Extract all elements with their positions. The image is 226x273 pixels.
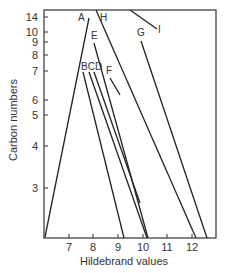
y-tick-14: 14 bbox=[26, 11, 38, 23]
x-tick-7: 7 bbox=[66, 241, 72, 253]
label-H: H bbox=[100, 12, 107, 23]
series-labels: A H E BCD F G I bbox=[78, 12, 161, 76]
plot-frame bbox=[44, 10, 216, 238]
x-axis bbox=[69, 234, 192, 238]
x-tick-8: 8 bbox=[90, 241, 96, 253]
y-tick-9: 9 bbox=[32, 36, 38, 48]
line-F bbox=[110, 78, 120, 95]
line-A bbox=[45, 18, 89, 237]
x-tick-9: 9 bbox=[115, 241, 121, 253]
label-F: F bbox=[106, 65, 112, 76]
y-tick-6: 6 bbox=[32, 94, 38, 106]
y-tick-3: 3 bbox=[32, 182, 38, 194]
x-tick-11: 11 bbox=[161, 241, 172, 253]
x-axis-title: Hildebrand values bbox=[80, 255, 169, 267]
y-axis-title: Carbon numbers bbox=[7, 79, 19, 161]
line-G bbox=[141, 41, 207, 238]
line-D bbox=[94, 72, 140, 203]
x-tick-labels: 7 8 9 10 11 12 bbox=[66, 241, 198, 253]
label-A: A bbox=[78, 12, 85, 23]
label-E: E bbox=[91, 30, 98, 41]
y-tick-4: 4 bbox=[32, 140, 38, 152]
x-tick-10: 10 bbox=[137, 241, 149, 253]
line-H bbox=[96, 10, 196, 238]
y-tick-7: 7 bbox=[32, 65, 38, 77]
label-I: I bbox=[158, 24, 161, 35]
chart: 14 10 9 8 7 6 5 4 3 7 8 9 10 11 12 Hilde… bbox=[0, 0, 226, 273]
line-E bbox=[94, 43, 148, 238]
y-tick-labels: 14 10 9 8 7 6 5 4 3 bbox=[26, 11, 38, 194]
series-lines bbox=[45, 10, 207, 238]
y-tick-8: 8 bbox=[32, 49, 38, 61]
label-G: G bbox=[137, 27, 145, 38]
y-tick-5: 5 bbox=[32, 109, 38, 121]
x-tick-12: 12 bbox=[186, 241, 198, 253]
label-BCD: BCD bbox=[81, 61, 102, 72]
